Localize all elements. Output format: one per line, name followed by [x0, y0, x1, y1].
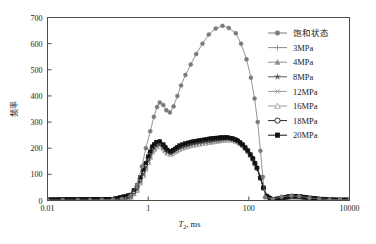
legend-label-text: 8MPa	[293, 72, 314, 82]
y-axis-title-text: 频率	[9, 101, 19, 117]
t2-distribution-chart: 01002003004005006007000.01110010000T2, m…	[0, 0, 376, 244]
y-tick-label: 400	[31, 92, 43, 101]
x-axis-title: T2, ms	[179, 219, 201, 231]
y-tick-label: 300	[31, 118, 43, 127]
legend-label-text: 4MPa	[293, 57, 314, 67]
y-tick-label: 500	[31, 66, 43, 75]
x-axis-title-rest: , ms	[186, 219, 200, 229]
y-tick-label: 200	[31, 144, 43, 153]
x-tick-label: 10000	[340, 204, 360, 213]
chart-container: 01002003004005006007000.01110010000T2, m…	[0, 0, 376, 244]
legend-label-text: 12MPa	[293, 87, 318, 97]
legend-label-text: 饱和状态	[293, 28, 329, 38]
legend-label-text: 18MPa	[293, 116, 318, 126]
x-tick-label: 0.01	[41, 204, 55, 213]
y-tick-label: 600	[31, 40, 43, 49]
legend-label-text: 3MPa	[293, 43, 314, 53]
y-tick-label: 100	[31, 170, 43, 179]
x-tick-label: 1	[146, 204, 150, 213]
y-tick-label: 700	[31, 14, 43, 23]
x-axis-title-text: T2, ms	[179, 219, 201, 231]
x-tick-label: 100	[243, 204, 255, 213]
legend-label-text: 16MPa	[293, 101, 318, 111]
legend-label-text: 20MPa	[293, 130, 318, 140]
